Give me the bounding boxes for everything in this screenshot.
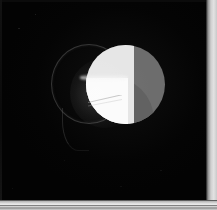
emulsion-speck — [18, 28, 20, 29]
emulsion-speck — [35, 14, 36, 15]
film-margin-bottom-rule — [0, 205, 217, 206]
plate-top-edge — [0, 0, 206, 2]
plate-left-edge — [0, 0, 2, 200]
emulsion-speck — [120, 186, 122, 187]
streak-line-secondary — [88, 98, 122, 107]
diagonal-streak-clip — [88, 95, 122, 109]
film-margin-right — [206, 0, 217, 210]
emulsion-speck — [64, 160, 65, 161]
emulsion-speck — [12, 188, 13, 189]
emulsion-speck — [160, 170, 162, 171]
image-canvas — [0, 0, 217, 210]
terminator-band — [80, 74, 128, 81]
